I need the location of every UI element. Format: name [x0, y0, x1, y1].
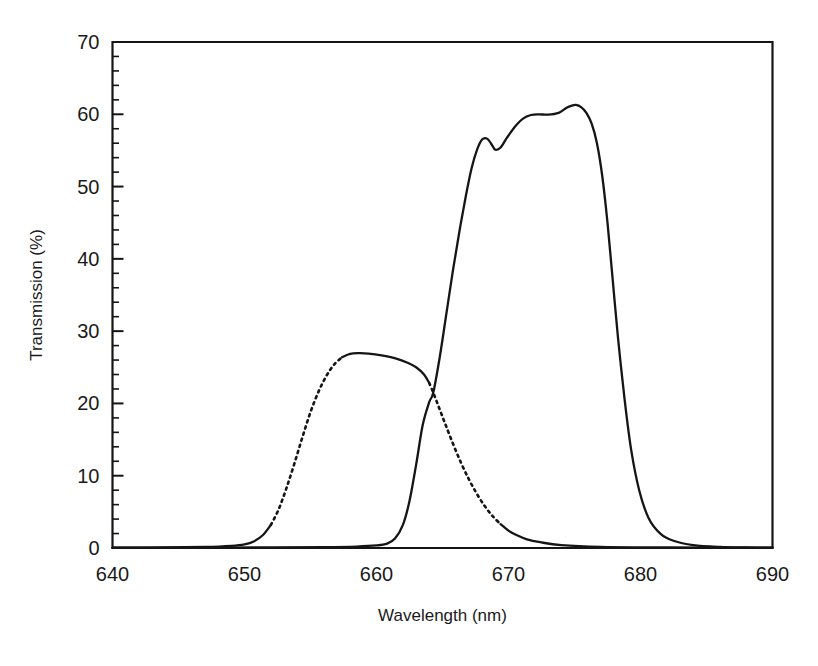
x-tick-label: 640 [96, 563, 129, 585]
y-tick-label: 70 [77, 31, 99, 53]
y-tick-label: 0 [88, 537, 99, 559]
y-axis-title: Transmission (%) [27, 229, 46, 361]
x-tick-label: 650 [228, 563, 261, 585]
figure-container: 010203040506070 640650660670680690 Wavel… [0, 0, 818, 666]
x-tick-label: 680 [624, 563, 657, 585]
x-tick-label: 670 [492, 563, 525, 585]
x-tick-label: 660 [360, 563, 393, 585]
y-tick-label: 20 [77, 392, 99, 414]
y-tick-label: 50 [77, 176, 99, 198]
x-axis-title: Wavelength (nm) [378, 606, 507, 625]
x-tick-label: 690 [756, 563, 789, 585]
y-tick-label: 40 [77, 248, 99, 270]
y-tick-label: 10 [77, 465, 99, 487]
y-tick-label: 60 [77, 103, 99, 125]
transmission-spectrum-chart: 010203040506070 640650660670680690 Wavel… [0, 0, 818, 666]
y-tick-label: 30 [77, 320, 99, 342]
